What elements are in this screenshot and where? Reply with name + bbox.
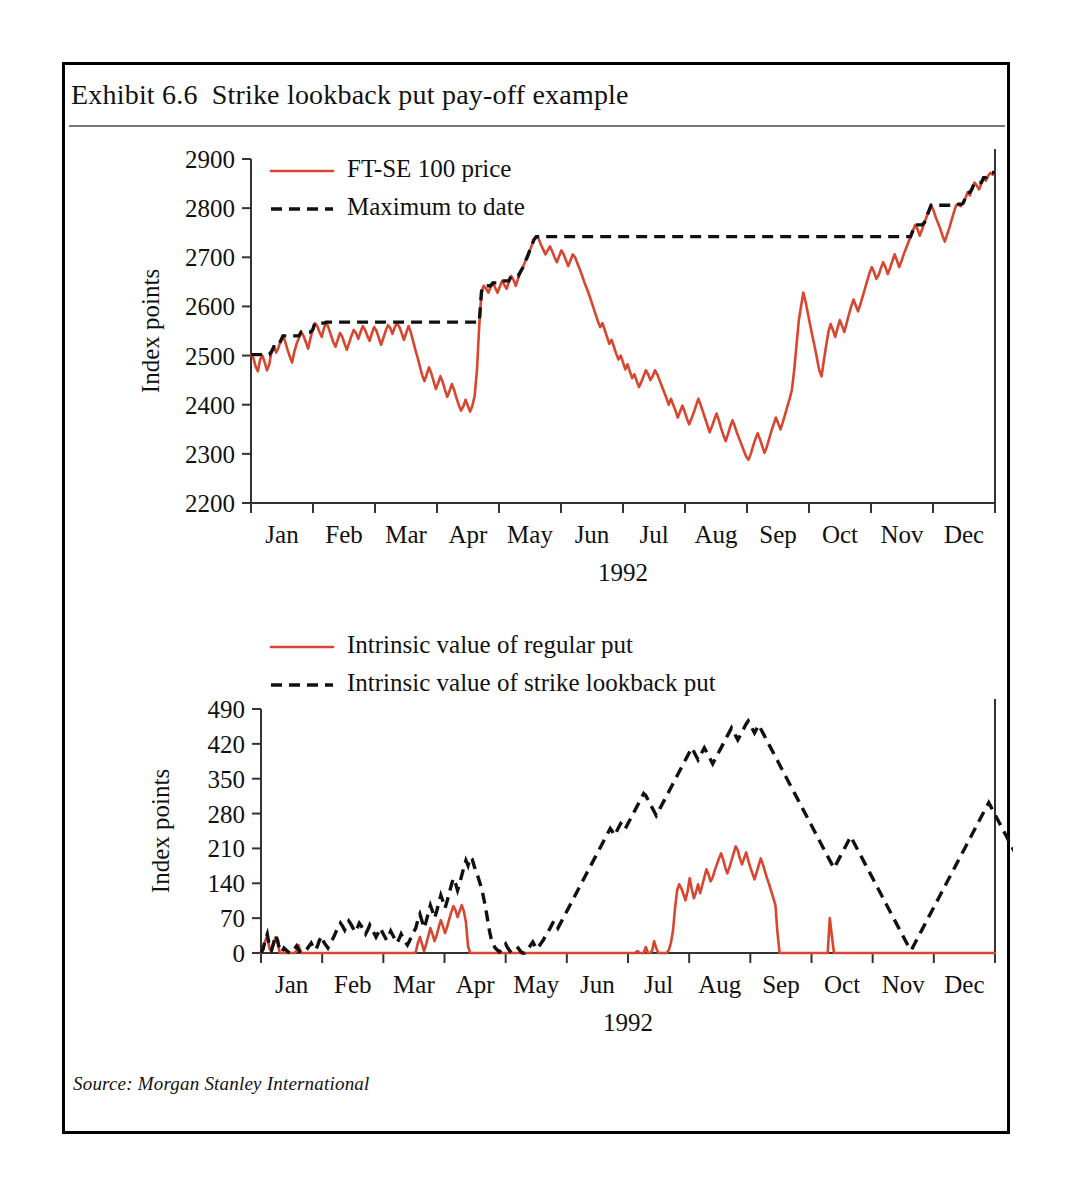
series-line-2 xyxy=(261,721,1013,953)
exhibit-page: Exhibit 6.6Strike lookback put pay-off e… xyxy=(0,0,1074,1197)
y-tick-label: 2700 xyxy=(185,244,235,271)
y-tick-label: 350 xyxy=(208,766,246,793)
y-tick-label: 2800 xyxy=(185,195,235,222)
x-axis-title: 1992 xyxy=(603,1009,653,1031)
x-tick-label: Jul xyxy=(644,971,673,998)
x-tick-label: Mar xyxy=(393,971,435,998)
y-axis-title: Index points xyxy=(147,769,174,893)
y-axis-ticks-bottom: 070140210280350420490 xyxy=(208,696,262,967)
chart-svg-top: 22002300240025002600270028002900JanFebMa… xyxy=(65,131,1013,631)
page-title: Exhibit 6.6Strike lookback put pay-off e… xyxy=(65,79,1007,111)
x-axis-ticks-bottom: JanFebMarAprMayJunJulAugSepOctNovDec xyxy=(261,953,995,998)
x-tick-label: Jun xyxy=(580,971,615,998)
series-line-1 xyxy=(261,846,995,953)
x-tick-label: Jul xyxy=(639,521,668,548)
exhibit-frame: Exhibit 6.6Strike lookback put pay-off e… xyxy=(62,62,1010,1134)
y-tick-label: 2600 xyxy=(185,293,235,320)
legend-label-2: Maximum to date xyxy=(347,193,525,220)
legend-label-1: Intrinsic value of regular put xyxy=(347,631,633,658)
y-axis-ticks-top: 22002300240025002600270028002900 xyxy=(185,146,251,517)
x-tick-label: May xyxy=(507,521,553,548)
x-tick-label: Apr xyxy=(456,971,496,998)
y-tick-label: 210 xyxy=(208,835,246,862)
x-tick-label: Aug xyxy=(698,971,742,998)
x-tick-label: May xyxy=(513,971,559,998)
y-tick-label: 0 xyxy=(233,940,246,967)
x-tick-label: Jan xyxy=(275,971,309,998)
y-tick-label: 70 xyxy=(220,905,245,932)
y-tick-label: 490 xyxy=(208,696,246,723)
x-tick-label: Mar xyxy=(385,521,427,548)
series-group-bottom xyxy=(261,721,1013,953)
title-divider xyxy=(69,125,1005,127)
x-tick-label: Nov xyxy=(882,971,926,998)
x-tick-label: Aug xyxy=(694,521,738,548)
x-tick-label: Dec xyxy=(944,521,984,548)
y-tick-label: 2200 xyxy=(185,490,235,517)
legend-bottom: Intrinsic value of regular putIntrinsic … xyxy=(271,631,716,696)
y-tick-label: 2400 xyxy=(185,392,235,419)
legend-label-1: FT-SE 100 price xyxy=(347,155,511,182)
x-tick-label: Feb xyxy=(334,971,372,998)
y-tick-label: 140 xyxy=(208,870,246,897)
x-tick-label: Sep xyxy=(762,971,800,998)
y-tick-label: 2900 xyxy=(185,146,235,173)
x-axis-title: 1992 xyxy=(598,559,648,586)
x-tick-label: Sep xyxy=(759,521,797,548)
exhibit-number: Exhibit 6.6 xyxy=(71,79,198,110)
chart-intrinsic-value: 070140210280350420490JanFebMarAprMayJunJ… xyxy=(65,631,1013,1031)
x-tick-label: Nov xyxy=(880,521,924,548)
x-tick-label: Apr xyxy=(449,521,489,548)
y-tick-label: 280 xyxy=(208,801,246,828)
x-tick-label: Dec xyxy=(944,971,984,998)
x-tick-label: Jun xyxy=(575,521,610,548)
y-tick-label: 420 xyxy=(208,731,246,758)
legend-label-2: Intrinsic value of strike lookback put xyxy=(347,669,716,696)
x-tick-label: Feb xyxy=(325,521,363,548)
x-tick-label: Jan xyxy=(265,521,299,548)
x-tick-label: Oct xyxy=(824,971,860,998)
exhibit-title-text: Strike lookback put pay-off example xyxy=(212,79,629,110)
y-tick-label: 2300 xyxy=(185,441,235,468)
source-note: Source: Morgan Stanley International xyxy=(73,1073,370,1095)
y-axis-title: Index points xyxy=(137,269,164,393)
y-tick-label: 2500 xyxy=(185,343,235,370)
legend-top: FT-SE 100 priceMaximum to date xyxy=(271,155,525,220)
x-axis-ticks-top: JanFebMarAprMayJunJulAugSepOctNovDec xyxy=(251,503,995,548)
chart-svg-bottom: 070140210280350420490JanFebMarAprMayJunJ… xyxy=(65,631,1013,1031)
x-tick-label: Oct xyxy=(822,521,858,548)
chart-ftse-price: 22002300240025002600270028002900JanFebMa… xyxy=(65,131,1013,631)
